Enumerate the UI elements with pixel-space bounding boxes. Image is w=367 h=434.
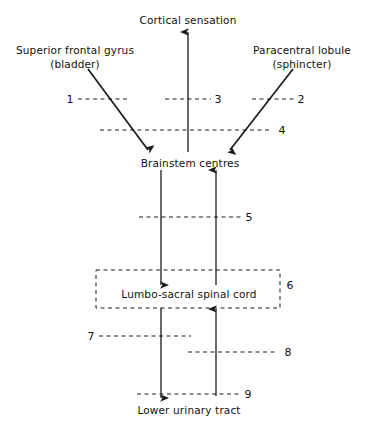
pathway-number-4: 4 <box>279 124 286 137</box>
pathway-number-9: 9 <box>245 388 252 401</box>
pathway-number-7: 7 <box>88 330 95 343</box>
pathway-number-1: 1 <box>67 93 74 106</box>
arrow-paracentral-lobule-to-brainstem <box>230 69 293 150</box>
label-paracentral-lobule-sub: (sphincter) <box>273 58 332 70</box>
pathway-number-6: 6 <box>287 279 294 292</box>
pathway-number-8: 8 <box>285 346 292 359</box>
pathway-number-2: 2 <box>298 93 305 106</box>
label-cortical-sensation: Cortical sensation <box>140 14 237 26</box>
pathway-number-3: 3 <box>215 93 222 106</box>
label-lumbo-sacral-spinal-cord: Lumbo-sacral spinal cord <box>121 288 256 300</box>
label-superior-frontal-gyrus: Superior frontal gyrus <box>16 44 134 56</box>
arrow-superior-frontal-gyrus-to-brainstem <box>88 69 148 150</box>
label-brainstem-centres: Brainstem centres <box>141 157 240 169</box>
diagram-canvas: Cortical sensation Superior frontal gyru… <box>0 0 367 434</box>
label-lower-urinary-tract: Lower urinary tract <box>137 404 240 416</box>
pathway-number-5: 5 <box>246 211 253 224</box>
label-paracentral-lobule: Paracentral lobule <box>253 44 351 56</box>
label-superior-frontal-gyrus-sub: (bladder) <box>50 58 100 70</box>
